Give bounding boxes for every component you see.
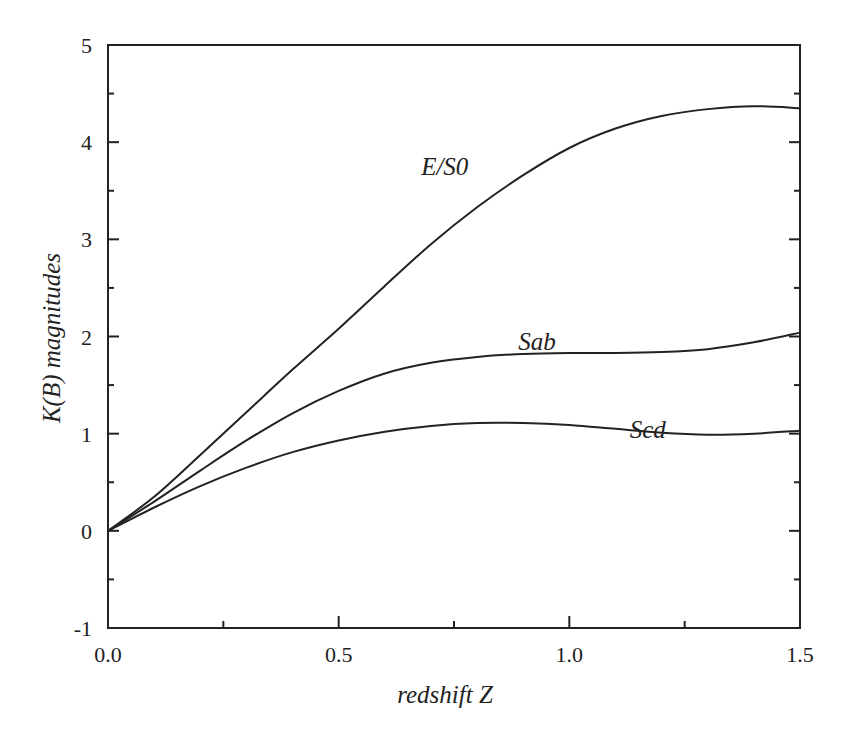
- y-tick-label: 4: [81, 130, 92, 155]
- x-tick-label: 0.5: [325, 642, 353, 667]
- curve-scd: [108, 423, 800, 531]
- curve-label: Scd: [630, 416, 667, 443]
- curve-sab: [108, 333, 800, 531]
- y-axis-title: K(B) magnitudes: [38, 253, 66, 424]
- x-axis-title: redshift Z: [397, 681, 494, 708]
- y-tick-label: 5: [81, 33, 92, 58]
- y-tick-label: 0: [81, 519, 92, 544]
- x-tick-label: 1.5: [786, 642, 814, 667]
- curve-labels: E/S0SabScd: [420, 153, 666, 442]
- y-tick-label: 3: [81, 227, 92, 252]
- plot-border: [108, 45, 800, 628]
- x-tick-label: 0.0: [94, 642, 122, 667]
- y-tick-label: -1: [74, 616, 92, 641]
- y-tick-label: 1: [81, 422, 92, 447]
- y-tick-label: 2: [81, 325, 92, 350]
- curve-label: E/S0: [420, 153, 469, 180]
- k-correction-chart: -10123450.00.51.01.5 E/S0SabScd redshift…: [0, 0, 845, 742]
- x-tick-label: 1.0: [556, 642, 584, 667]
- curve-label: Sab: [518, 328, 556, 355]
- plot-frame: [108, 45, 800, 628]
